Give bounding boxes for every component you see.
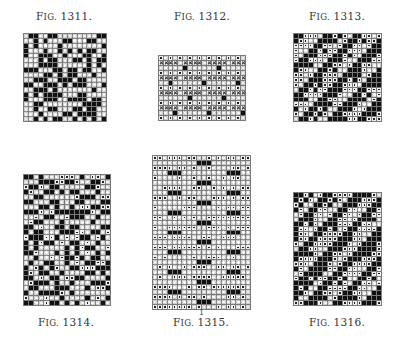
weave-cell <box>207 111 211 115</box>
weave-cell <box>24 210 28 214</box>
weave-cell <box>83 58 87 62</box>
weave-cell <box>183 86 187 90</box>
weave-cell <box>222 186 226 190</box>
weave-cell <box>164 56 168 60</box>
weave-cell <box>101 251 105 255</box>
weave-cell <box>168 171 172 175</box>
weave-cell <box>202 235 206 239</box>
weave-cell <box>34 281 38 285</box>
weave-cell <box>101 266 105 270</box>
weave-cell <box>323 68 327 72</box>
weave-cell <box>294 262 298 266</box>
weave-cell <box>358 301 362 305</box>
weave-cell <box>96 225 100 229</box>
weave-cell <box>236 161 240 165</box>
weave-cell <box>236 280 240 284</box>
weave-cell <box>333 252 337 256</box>
weave-cell <box>80 200 84 204</box>
weave-cell <box>102 83 106 87</box>
weave-cell <box>323 227 327 231</box>
weave-cell <box>188 96 192 100</box>
weave-cell <box>294 83 298 87</box>
weave-cell <box>97 88 101 92</box>
weave-cell <box>168 245 172 249</box>
weave-cell <box>246 305 250 309</box>
weave-cell <box>83 63 87 67</box>
weave-cell <box>187 196 191 200</box>
weave-cell <box>92 58 96 62</box>
weave-cell <box>192 156 196 160</box>
weave-cell <box>55 296 59 300</box>
weave-cell <box>338 296 342 300</box>
weave-cell <box>187 201 191 205</box>
weave-cell <box>48 73 52 77</box>
weave-cell <box>353 34 357 38</box>
weave-cell <box>353 44 357 48</box>
weave-cell <box>198 96 202 100</box>
weave-cell <box>294 277 298 281</box>
weave-cell <box>318 193 322 197</box>
weave-cell <box>78 49 82 53</box>
weave-cell <box>328 208 332 212</box>
weave-cell <box>212 81 216 85</box>
weave-cell <box>178 106 182 110</box>
weave-cell <box>153 166 157 170</box>
weave-cell <box>202 71 206 75</box>
weave-cell <box>29 261 33 265</box>
weave-cell <box>80 190 84 194</box>
weave-cell <box>182 275 186 279</box>
weave-cell <box>75 246 79 250</box>
weave-cell <box>353 247 357 251</box>
weave-cell <box>83 49 87 53</box>
weave-cell <box>231 280 235 284</box>
weave-cell <box>173 166 177 170</box>
weave-cell <box>236 56 240 60</box>
weave-cell <box>348 301 352 305</box>
weave-cell <box>362 198 366 202</box>
weave-cell <box>101 261 105 265</box>
weave-cell <box>44 83 48 87</box>
weave-cell <box>55 220 59 224</box>
weave-cell <box>299 102 303 106</box>
weave-cell <box>55 261 59 265</box>
weave-cell <box>217 290 221 294</box>
weave-cell <box>39 241 43 245</box>
weave-cell <box>24 83 28 87</box>
weave-cell <box>318 93 322 97</box>
weave-cell <box>338 222 342 226</box>
weave-cell <box>73 63 77 67</box>
weave-cell <box>24 34 28 38</box>
weave-cell <box>294 193 298 197</box>
weave-cell <box>63 39 67 43</box>
weave-cell <box>294 88 298 92</box>
weave-cell <box>193 111 197 115</box>
weave-cell <box>102 58 106 62</box>
weave-cell <box>78 39 82 43</box>
weave-cell <box>328 291 332 295</box>
weave-cell <box>212 290 216 294</box>
weave-cell <box>318 213 322 217</box>
weave-cell <box>173 106 177 110</box>
weave-cell <box>231 221 235 225</box>
weave-cell <box>106 230 110 234</box>
weave-cell <box>323 93 327 97</box>
weave-cell <box>80 251 84 255</box>
weave-cell <box>236 171 240 175</box>
weave-cell <box>246 186 250 190</box>
weave-cell <box>367 227 371 231</box>
weave-cell <box>202 116 206 120</box>
weave-cell <box>202 96 206 100</box>
weave-cell <box>44 73 48 77</box>
weave-cell <box>314 301 318 305</box>
weave-cell <box>178 101 182 105</box>
weave-cell <box>318 198 322 202</box>
weave-cell <box>207 56 211 60</box>
weave-cell <box>377 286 381 290</box>
weave-cell <box>377 262 381 266</box>
weave-cell <box>197 245 201 249</box>
weave-cell <box>29 102 33 106</box>
weave-cell <box>24 266 28 270</box>
weave-cell <box>78 102 82 106</box>
weave-cell <box>101 195 105 199</box>
weave-cell <box>367 218 371 222</box>
